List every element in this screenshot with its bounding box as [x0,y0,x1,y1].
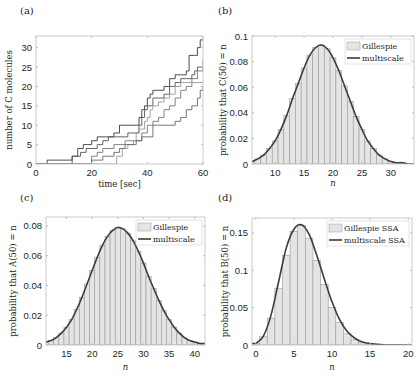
y-tick-label: 0.08 [24,220,43,231]
y-tick-label: 0.02 [230,133,249,144]
histogram-bar [290,231,298,345]
x-tick-label: 5 [291,348,296,359]
legend-entry: Gillespie SSA [344,224,399,233]
histogram-bar [105,236,110,345]
y-tick-label: 0.1 [235,265,248,276]
y-tick-label: 10 [21,120,32,131]
x-tick-label: 0 [253,348,258,359]
x-tick-label: 10 [327,348,338,359]
histogram-bar [336,71,342,164]
legend-entry: Gillespie [362,42,398,51]
histogram-bar [131,241,136,345]
histogram-bar [146,277,151,345]
panel-d: (d)Gillespie SSAmultiscale SSA0510152000… [218,192,413,372]
histogram-bar [141,263,146,345]
histogram-bar [305,238,313,345]
y-tick-label: 0 [27,159,32,170]
legend-entry: Gillespie [153,223,189,232]
histogram-bar [90,271,95,345]
histogram-bar [100,245,105,345]
y-tick-label: 0.05 [230,302,249,313]
x-tick-label: 20 [403,348,414,359]
y-tick-label: 0.04 [24,280,43,291]
histogram-bar [353,117,359,164]
y-tick-label: 0.04 [230,107,249,118]
histogram-bar [324,49,330,164]
figure: (a)0204060051015202530time [sec]number o… [0,0,420,378]
y-tick-label: 0.1 [235,31,248,42]
histogram-bar [156,300,161,345]
x-tick-label: 20 [328,167,339,178]
x-tick-label: 35 [164,348,175,359]
histogram-bar [307,55,313,164]
x-tick-label: 25 [113,348,124,359]
histogram-bar [313,261,321,345]
histogram-bar [330,58,336,164]
legend: Gillespiemultiscale [136,220,202,245]
x-tick-label: 20 [86,167,97,178]
x-tick-label: 10 [270,167,281,178]
x-axis-label: n [330,178,335,188]
x-axis-label: time [sec] [98,179,141,189]
trajectory-line-1 [36,40,203,164]
y-tick-label: 0.06 [230,82,249,93]
histogram-bar [95,257,100,345]
histogram-bar [347,101,353,164]
histogram-bar [151,288,156,345]
x-tick-label: 40 [189,348,200,359]
x-tick-label: 15 [365,348,376,359]
histogram-bar [295,83,301,164]
legend: Gillespie SSAmultiscale SSA [327,221,409,246]
panel-c: (c)Gillespiemultiscale15202530354000.020… [8,192,208,372]
histogram-bar [343,334,351,345]
y-tick-label: 0.06 [24,250,43,261]
histogram-bar [110,230,115,345]
x-axis-label: n [329,362,334,372]
histogram-bar [79,297,84,345]
panel-label: (b) [218,5,232,16]
y-tick-label: 0.02 [24,310,43,321]
x-tick-label: 30 [138,348,149,359]
histogram-bar [136,251,141,345]
y-axis-label: number of C molecules [4,50,14,150]
histogram-bar [313,48,319,164]
histogram-bar [290,99,296,164]
legend-bar-swatch [138,223,151,231]
panel-a: (a)0204060051015202530time [sec]number o… [4,5,208,189]
x-axis-label: n [123,362,128,372]
histogram-bar [161,311,166,345]
histogram-bar [120,229,125,345]
x-tick-label: 0 [33,167,38,178]
x-tick-label: 15 [61,348,72,359]
histogram-bar [298,225,306,345]
y-axis-label: probability that B(50) = n [220,225,230,337]
legend-entry: multiscale [153,235,195,244]
y-tick-label: 20 [21,81,32,92]
histogram-bar [319,45,325,164]
y-tick-label: 0 [243,159,248,170]
panel-label: (c) [20,192,34,203]
y-axis-label: probability that C(50) = n [218,44,228,156]
plot-area [36,40,203,164]
histogram-bar [342,86,348,164]
legend: Gillespiemultiscale [345,39,411,64]
y-tick-label: 0.15 [230,227,249,238]
histogram-bar [282,255,290,345]
y-tick-label: 0.08 [230,56,249,67]
y-tick-label: 5 [27,139,32,150]
y-tick-label: 25 [21,62,32,73]
histogram-bar [301,68,307,164]
x-tick-label: 25 [357,167,368,178]
histogram-bar [321,284,329,345]
legend-entry: multiscale [362,54,404,63]
y-tick-label: 30 [21,42,32,53]
histogram-bar [126,233,131,345]
legend-bar-swatch [347,42,360,50]
x-tick-label: 30 [386,167,397,178]
panel-label: (d) [218,192,232,203]
histogram-bar [260,337,268,345]
legend-entry: multiscale SSA [344,236,405,245]
histogram-bar [115,227,120,345]
y-axis-label: probability that A(50) = n [8,225,18,337]
x-tick-label: 20 [87,348,98,359]
